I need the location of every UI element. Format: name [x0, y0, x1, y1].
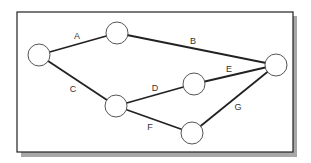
node-n5	[105, 95, 127, 117]
edge-label-f: F	[147, 122, 153, 132]
frame-border	[17, 12, 293, 152]
node-n6	[181, 122, 203, 144]
edge-label-g: G	[234, 102, 241, 112]
edge-label-d: D	[152, 83, 159, 93]
edge-label-a: A	[74, 31, 80, 41]
node-n3	[265, 54, 287, 76]
edge-label-b: B	[190, 36, 196, 46]
node-n2	[106, 22, 128, 44]
node-n1	[28, 44, 50, 66]
edge-label-c: C	[70, 84, 77, 94]
node-n4	[183, 73, 205, 95]
edge-label-e: E	[226, 64, 232, 74]
network-diagram: ABCDEFG	[0, 0, 311, 163]
